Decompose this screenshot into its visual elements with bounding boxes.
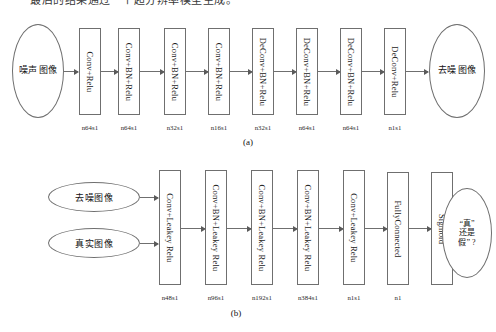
clipped-header-text: 最后的结果通过一个超分辨率模型生成。 — [0, 0, 496, 9]
block-a-6: DeConv+BN+Relu — [296, 28, 318, 115]
real-or-fake-output-text: “真” 还是 假” ? — [443, 219, 491, 247]
arrow-b-6 — [409, 228, 431, 229]
block-a-7-label: DeConv+BN+Relu — [346, 37, 356, 106]
arrow-b-5 — [365, 228, 387, 229]
block-b-6-label: FullyConnected — [393, 200, 403, 257]
nlabel-a-7: n64s1 — [335, 124, 367, 131]
arrow-a-3 — [186, 71, 208, 72]
arrow-b-2 — [227, 228, 251, 229]
block-a-1-label: Conv+Relu — [85, 51, 95, 92]
block-a-3-label: Conv+BN+Relu — [170, 42, 180, 100]
arrow-a-in — [64, 71, 78, 72]
denoised-col-1: 去噪 — [438, 66, 456, 76]
arrow-b-4 — [319, 228, 343, 229]
block-b-5-label: Conv+Leakey Relu — [349, 193, 359, 263]
arrow-a-1 — [101, 71, 118, 72]
block-a-4-label: Conv+BN+Relu — [214, 42, 224, 100]
nlabel-a-5: n32s1 — [247, 124, 279, 131]
noisy-image-input-text: 噪声 图像 — [13, 66, 63, 76]
denoised-image-input-text: 去噪图像 — [49, 191, 139, 204]
denoised-col-2: 图像 — [458, 66, 476, 76]
nlabel-a-8: n1s1 — [379, 124, 411, 131]
arrow-a-2 — [140, 71, 164, 72]
nlabel-a-6: n64s1 — [291, 124, 323, 131]
nlabel-a-2: n64s1 — [113, 124, 145, 131]
block-b-3: Conv+BN+Leakey Relu — [251, 170, 273, 285]
block-a-5: DeConv+BN+Relu — [252, 28, 274, 115]
arrow-b-in-2 — [140, 243, 158, 244]
nlabel-a-4: n16s1 — [203, 124, 235, 131]
figure-canvas: 最后的结果通过一个超分辨率模型生成。 噪声 图像 Conv+Relu Conv+… — [0, 0, 496, 332]
real-image-input-text: 真实图像 — [49, 237, 139, 250]
block-a-8-label: DeConv+Relu — [390, 46, 400, 97]
block-a-2-label: Conv+BN+Relu — [124, 42, 134, 100]
arrow-a-4 — [230, 71, 252, 72]
nlabel-b-5: n1s1 — [338, 294, 370, 301]
block-a-6-label: DeConv+BN+Relu — [302, 37, 312, 106]
denoised-image-output: 去噪 图像 — [429, 24, 485, 118]
denoised-image-input: 去噪图像 — [48, 182, 140, 212]
arrow-a-7 — [362, 71, 384, 72]
nlabel-b-1: n48s1 — [154, 294, 186, 301]
block-a-8: DeConv+Relu — [384, 28, 406, 115]
block-b-6: FullyConnected — [387, 172, 409, 285]
arrow-b-in-1 — [140, 197, 158, 198]
block-b-3-label: Conv+BN+Leakey Relu — [257, 184, 267, 271]
block-a-4: Conv+BN+Relu — [208, 28, 230, 115]
block-b-2: Conv+BN+Leakey Relu — [205, 170, 227, 285]
arrow-a-5 — [274, 71, 296, 72]
block-a-3: Conv+BN+Relu — [164, 28, 186, 115]
clipped-header-label: 最后的结果通过一个超分辨率模型生成。 — [30, 0, 237, 7]
block-b-1: Conv+Leakey Relu — [159, 170, 181, 285]
arrow-a-out — [406, 71, 428, 72]
block-a-2: Conv+BN+Relu — [118, 28, 140, 115]
block-b-4-label: Conv+BN+Leakey Relu — [303, 184, 313, 271]
nlabel-a-1: n64s1 — [74, 124, 106, 131]
rof-line-2: 还是 — [443, 228, 491, 237]
nlabel-a-3: n32s1 — [159, 124, 191, 131]
arrow-b-1 — [181, 228, 205, 229]
arrow-a-6 — [318, 71, 340, 72]
nlabel-b-2: n96s1 — [200, 294, 232, 301]
real-or-fake-output: “真” 还是 假” ? — [442, 188, 492, 278]
block-b-1-label: Conv+Leakey Relu — [165, 193, 175, 263]
caption-a: (a) — [224, 137, 272, 147]
arrow-b-3 — [273, 228, 297, 229]
nlabel-b-3: n192s1 — [246, 294, 278, 301]
block-b-5: Conv+Leakey Relu — [343, 170, 365, 285]
noisy-image-input: 噪声 图像 — [12, 24, 64, 118]
nlabel-b-6: n1 — [382, 294, 414, 301]
block-a-7: DeConv+BN+Relu — [340, 28, 362, 115]
block-a-1: Conv+Relu — [79, 28, 101, 115]
denoised-image-output-text: 去噪 图像 — [430, 66, 484, 76]
noisy-col-2: 图像 — [39, 66, 57, 76]
nlabel-b-4: n384s1 — [292, 294, 324, 301]
block-a-5-label: DeConv+BN+Relu — [258, 37, 268, 106]
block-b-2-label: Conv+BN+Leakey Relu — [211, 184, 221, 271]
real-image-input: 真实图像 — [48, 228, 140, 258]
caption-b: (b) — [212, 308, 260, 318]
block-b-4: Conv+BN+Leakey Relu — [297, 170, 319, 285]
rof-line-3: 假” ? — [443, 238, 491, 247]
noisy-col-1: 噪声 — [19, 66, 37, 76]
